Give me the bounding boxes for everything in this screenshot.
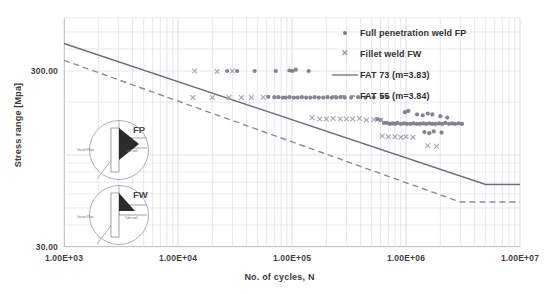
inset-label-fw: FW xyxy=(133,189,148,200)
legend-label-fw: Fillet weld FW xyxy=(360,49,421,59)
solid-line-icon xyxy=(330,71,360,79)
inset-part-left-fw: Gusset Plate xyxy=(77,215,94,219)
x-tick-label: 1.00E+06 xyxy=(387,253,425,263)
x-tick-label: 1.00E+07 xyxy=(501,253,539,263)
dashed-line-icon xyxy=(330,92,360,100)
inset-part-left-fp: Gusset Plate xyxy=(77,148,94,152)
inset-part-right-fp: Tube wall xyxy=(125,149,137,153)
y-axis-title: Stress range [Mpa] xyxy=(13,45,23,205)
y-tick-label: 30.00 xyxy=(6,242,58,252)
legend-item-fat73: FAT 73 (m=3.83) xyxy=(330,64,545,85)
sn-curve-chart: 300.0030.00 1.00E+031.00E+041.00E+051.00… xyxy=(0,0,559,294)
inset-label-fp: FP xyxy=(133,124,145,135)
legend: Full penetration weld FP ✕ Fillet weld F… xyxy=(330,22,545,106)
x-tick-label: 1.00E+05 xyxy=(273,253,311,263)
inset-fw: FW Gusset Plate Tube wall xyxy=(59,183,179,247)
x-axis-title: No. of cycles, N xyxy=(0,272,559,282)
legend-label-fat55: FAT 55 (m=3.84) xyxy=(360,91,430,101)
inset-part-right-fw: Tube wall xyxy=(125,216,137,220)
dot-marker-icon xyxy=(330,31,360,35)
x-marker-icon: ✕ xyxy=(330,49,360,58)
inset-fp: FP Gusset Plate Tube wall xyxy=(59,118,179,182)
legend-item-fw: ✕ Fillet weld FW xyxy=(330,43,545,64)
x-tick-label: 1.00E+03 xyxy=(45,253,83,263)
legend-item-fat55: FAT 55 (m=3.84) xyxy=(330,85,545,106)
legend-label-fat73: FAT 73 (m=3.83) xyxy=(360,70,430,80)
legend-item-fp: Full penetration weld FP xyxy=(330,22,545,43)
legend-label-fp: Full penetration weld FP xyxy=(360,28,466,38)
x-tick-label: 1.00E+04 xyxy=(159,253,197,263)
